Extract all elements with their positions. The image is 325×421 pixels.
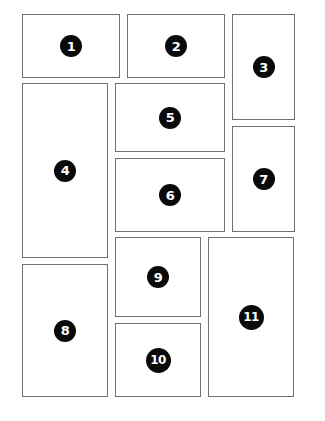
panel-5: 5 (115, 83, 225, 152)
panel-1: 1 (22, 14, 120, 78)
panel-number-badge: 2 (165, 35, 187, 57)
panel-number-badge: 8 (54, 320, 76, 342)
panel-6: 6 (115, 158, 225, 232)
panel-number-badge: 7 (253, 168, 275, 190)
panel-11: 11 (208, 237, 294, 397)
panel-10: 10 (115, 323, 201, 397)
panel-number-badge: 11 (239, 305, 264, 330)
panel-number-badge: 9 (147, 266, 169, 288)
panel-4: 4 (22, 83, 108, 258)
panel-number-badge: 3 (253, 56, 275, 78)
panel-9: 9 (115, 237, 201, 317)
panel-3: 3 (232, 14, 295, 120)
panel-8: 8 (22, 264, 108, 397)
panel-number-badge: 10 (146, 348, 171, 373)
panel-number-badge: 6 (159, 184, 181, 206)
panel-number-badge: 5 (159, 107, 181, 129)
layout-diagram: 1 2 3 4 5 6 7 8 9 10 11 (0, 0, 325, 421)
panel-2: 2 (127, 14, 225, 78)
panel-number-badge: 4 (54, 160, 76, 182)
panel-number-badge: 1 (60, 35, 82, 57)
panel-7: 7 (232, 126, 295, 232)
